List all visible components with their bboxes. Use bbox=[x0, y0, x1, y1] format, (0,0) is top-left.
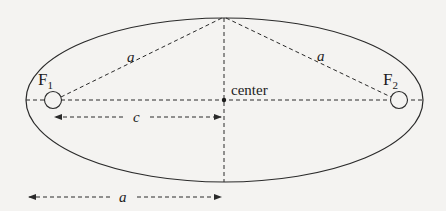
a-left-segment-label: a bbox=[127, 49, 135, 65]
center-label: center bbox=[231, 82, 268, 98]
a-dimension-label: a bbox=[119, 189, 127, 205]
a-right-segment-label: a bbox=[317, 48, 325, 64]
focus-f1-circle bbox=[45, 92, 62, 109]
center-dot bbox=[222, 98, 226, 102]
ellipse-diagram: F1 F2 center a a c a bbox=[0, 0, 446, 211]
c-label: c bbox=[133, 109, 140, 125]
focus-f2-circle bbox=[391, 92, 408, 109]
f1-to-vertex-line bbox=[61, 18, 222, 97]
focus-f2-label: F2 bbox=[383, 70, 398, 91]
focus-f1-label: F1 bbox=[38, 70, 53, 91]
